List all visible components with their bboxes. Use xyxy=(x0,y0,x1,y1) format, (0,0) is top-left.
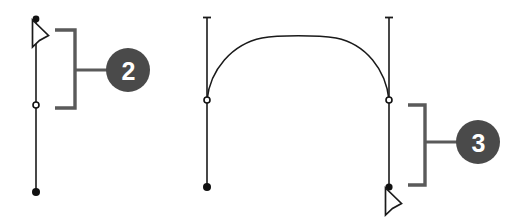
anchor-point-filled-left[interactable] xyxy=(203,183,211,191)
callout-badge-3-label: 3 xyxy=(472,129,486,157)
callout-badge-2-label: 2 xyxy=(122,57,136,85)
canvas-background xyxy=(0,0,528,223)
vector-path-illustration: 2 xyxy=(0,0,528,223)
anchor-point-open-left[interactable] xyxy=(204,97,210,103)
anchor-point-filled[interactable] xyxy=(32,188,40,196)
anchor-point-open-right[interactable] xyxy=(386,97,392,103)
anchor-point-open[interactable] xyxy=(33,102,39,108)
diagram-canvas: 2 xyxy=(0,0,528,223)
